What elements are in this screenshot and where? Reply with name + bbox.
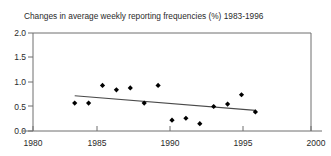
plot-canvas [0, 0, 331, 156]
data-point [114, 87, 119, 92]
data-point [211, 104, 216, 109]
data-point [197, 121, 202, 126]
data-point [225, 101, 230, 106]
data-point [72, 100, 77, 105]
data-point [239, 92, 244, 97]
chart-figure: ͷ ⁗ ᴀ ᴏ ᴎ ᴑ ᴑ ᴎ ᴏ Changes in average wee… [0, 0, 331, 156]
data-point [100, 83, 105, 88]
scatter-series [72, 83, 258, 126]
x-axis-ticks [33, 126, 311, 131]
y-axis-ticks [28, 33, 33, 131]
data-point [183, 116, 188, 121]
data-point [169, 118, 174, 123]
data-point [156, 83, 161, 88]
plot-frame [22, 33, 322, 131]
data-point [128, 85, 133, 90]
data-point [86, 100, 91, 105]
